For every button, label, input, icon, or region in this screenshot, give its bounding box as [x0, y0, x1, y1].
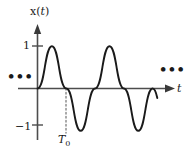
y-axis-label-suffix: ) — [45, 5, 49, 18]
sinusoid-figure: x(t) t 1 −1 T0 ••• ••• — [0, 0, 188, 158]
x-axis-label: t — [177, 83, 181, 94]
tick-label-positive-one: 1 — [23, 40, 30, 51]
tick-label-negative-one: −1 — [15, 121, 31, 132]
ellipsis-left: ••• — [7, 70, 33, 83]
y-axis-label-prefix: x( — [30, 5, 41, 18]
x-axis — [34, 24, 41, 140]
period-label: T0 — [58, 134, 70, 148]
y-axis-label: x(t) — [30, 6, 49, 17]
period-label-subscript: 0 — [65, 139, 70, 148]
ellipsis-right: ••• — [159, 63, 185, 76]
